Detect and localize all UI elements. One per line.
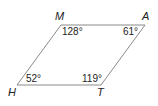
vertex-label-m: M xyxy=(55,10,65,22)
angle-label-h: 52° xyxy=(26,73,41,84)
angle-label-t: 119° xyxy=(82,73,102,84)
angle-label-a: 61° xyxy=(123,26,138,37)
angle-label-m: 128° xyxy=(62,26,83,37)
parallelogram-diagram: M A T H 128° 61° 119° 52° xyxy=(0,0,158,106)
vertex-label-t: T xyxy=(97,86,105,98)
vertex-label-h: H xyxy=(8,86,16,98)
vertex-label-a: A xyxy=(141,10,149,22)
